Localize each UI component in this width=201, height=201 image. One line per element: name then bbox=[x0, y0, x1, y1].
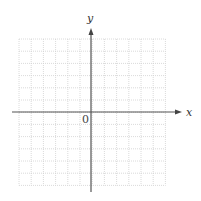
origin-label: 0 bbox=[82, 113, 89, 126]
y-axis-label: y bbox=[86, 12, 94, 25]
x-axis-arrow-icon bbox=[175, 110, 182, 115]
y-axis-arrow-icon bbox=[89, 28, 94, 35]
axes bbox=[12, 28, 182, 192]
coordinate-plane: x y 0 bbox=[0, 0, 201, 201]
x-axis-label: x bbox=[186, 106, 193, 119]
